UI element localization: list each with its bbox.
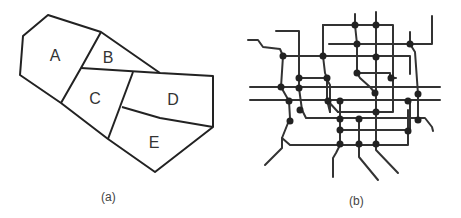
caption-a: (a) [101, 190, 116, 204]
caption-b: (b) [349, 194, 364, 208]
panel-b-network-diagram [0, 0, 461, 218]
network-edges [248, 12, 440, 180]
figure: A B C D E [0, 0, 461, 218]
